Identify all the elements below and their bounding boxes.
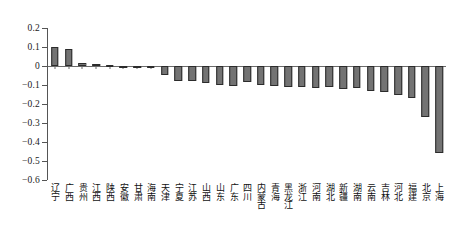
x-axis-tick (68, 66, 69, 69)
x-axis-tick-label: 宁夏 (174, 183, 184, 200)
bar-item (62, 28, 76, 180)
bar (380, 66, 388, 92)
bar-item (350, 28, 364, 180)
x-axis-label-slot: 吉林 (377, 183, 391, 204)
bar-item (117, 28, 131, 180)
y-axis-tick-label: −0.6 (22, 175, 40, 185)
y-axis-tick (42, 180, 47, 181)
bar (92, 64, 100, 66)
x-axis-tick-label: 山东 (215, 183, 225, 200)
bar (188, 66, 196, 81)
x-axis-label-slot: 广东 (226, 183, 240, 204)
x-axis-tick-label: 福建 (407, 183, 417, 200)
x-axis-label-slot: 内蒙古 (254, 183, 268, 213)
x-axis-label-slot: 甘肃 (130, 183, 144, 204)
bar-item (281, 28, 295, 180)
x-axis-tick-labels: 辽宁广西贵州江西陕西安徽甘肃海南天津宁夏江苏山西山东广东四川内蒙古青海黑龙江浙江… (48, 183, 446, 247)
x-axis-label-slot: 云南 (364, 183, 378, 204)
x-axis-tick-label: 湖南 (352, 183, 362, 200)
bar (298, 66, 306, 87)
x-axis-tick-label: 河南 (311, 183, 321, 200)
y-axis-tick-label: −0.2 (22, 99, 40, 109)
x-axis-label-slot: 福建 (405, 183, 419, 204)
x-axis-label-slot: 黑龙江 (281, 183, 295, 213)
bar-chart: 0.20.10−0.1−0.2−0.3−0.4−0.5−0.6 辽宁广西贵州江西… (0, 0, 452, 247)
bar (271, 66, 279, 86)
bar (367, 66, 375, 91)
x-axis-tick-label: 广东 (228, 183, 238, 200)
bar-item (130, 28, 144, 180)
y-axis-tick-label: −0.1 (22, 80, 40, 90)
y-axis-tick (42, 104, 47, 105)
y-axis-tick-label: 0.2 (28, 23, 40, 33)
x-axis-label-slot: 辽宁 (48, 183, 62, 204)
bar-item (213, 28, 227, 180)
x-axis-tick-label: 北京 (421, 183, 431, 200)
x-axis-tick-label: 陕西 (105, 183, 115, 200)
bar-item (419, 28, 433, 180)
x-axis-label-slot: 河北 (391, 183, 405, 204)
x-axis-tick-label: 上海 (434, 183, 444, 200)
x-axis-tick-label: 江苏 (187, 183, 197, 200)
x-axis-label-slot: 宁夏 (172, 183, 186, 204)
bar-item (268, 28, 282, 180)
plot-area (48, 28, 446, 180)
x-axis-tick-label: 河北 (393, 183, 403, 200)
bar-item (405, 28, 419, 180)
bar-item (199, 28, 213, 180)
bar-item (144, 28, 158, 180)
x-axis-label-slot: 北京 (419, 183, 433, 204)
bar (65, 49, 73, 66)
x-axis-tick-label: 海南 (146, 183, 156, 200)
bar (257, 66, 265, 85)
y-axis-tick-label: −0.5 (22, 156, 40, 166)
bar (394, 66, 402, 95)
bar-item (295, 28, 309, 180)
x-axis-label-slot: 江苏 (185, 183, 199, 204)
y-axis-tick (42, 28, 47, 29)
bar (51, 47, 59, 66)
bar-item (309, 28, 323, 180)
y-axis-tick-label: 0 (35, 61, 40, 71)
bar-item (364, 28, 378, 180)
bar (339, 66, 347, 89)
x-axis-label-slot: 江西 (89, 183, 103, 204)
x-axis-label-slot: 海南 (144, 183, 158, 204)
bar-item (158, 28, 172, 180)
bar-item (185, 28, 199, 180)
bar-item (322, 28, 336, 180)
x-axis-tick-label: 新疆 (338, 183, 348, 200)
x-axis-tick-label: 浙江 (297, 183, 307, 200)
x-axis-tick-label: 四川 (242, 183, 252, 200)
y-axis-tick-label: 0.1 (28, 42, 40, 52)
x-axis-label-slot: 新疆 (336, 183, 350, 204)
bar-item (377, 28, 391, 180)
x-axis-label-slot: 山西 (199, 183, 213, 204)
y-axis-tick-label: −0.4 (22, 137, 40, 147)
x-axis-tick-label: 吉林 (379, 183, 389, 200)
x-axis-label-slot: 陕西 (103, 183, 117, 204)
x-axis-tick-label: 黑龙江 (283, 183, 293, 209)
bar (133, 66, 141, 68)
x-axis-label-slot: 安徽 (117, 183, 131, 204)
x-axis-label-slot: 天津 (158, 183, 172, 204)
bar (353, 66, 361, 88)
bar (79, 63, 87, 66)
x-axis-tick-label: 甘肃 (132, 183, 142, 200)
bar (243, 66, 251, 82)
x-axis-tick-label: 云南 (366, 183, 376, 200)
x-axis-tick-label: 广西 (64, 183, 74, 200)
x-axis-tick-label: 安徽 (119, 183, 129, 200)
bar (147, 66, 155, 68)
x-axis-tick (96, 66, 97, 69)
x-axis-label-slot: 四川 (240, 183, 254, 204)
bar (161, 66, 169, 75)
bar (106, 65, 114, 67)
x-axis-tick-label: 青海 (270, 183, 280, 200)
x-axis-label-slot: 上海 (432, 183, 446, 204)
bar-item (391, 28, 405, 180)
bar-item (89, 28, 103, 180)
x-axis-label-slot: 贵州 (75, 183, 89, 204)
y-axis-tick-labels: 0.20.10−0.1−0.2−0.3−0.4−0.5−0.6 (0, 0, 40, 247)
bar-item (240, 28, 254, 180)
